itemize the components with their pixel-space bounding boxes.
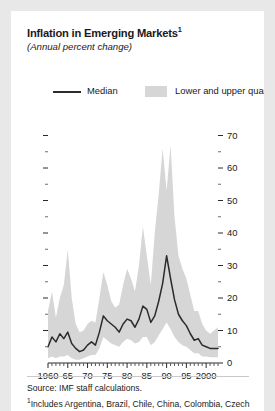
y-axis-label-30: 30 <box>227 260 237 271</box>
chart-plot-area <box>11 11 264 411</box>
y-axis-label-10: 10 <box>227 325 237 336</box>
y-axis-label-70: 70 <box>227 130 237 141</box>
y-axis-label-60: 60 <box>227 162 237 173</box>
footer-divider <box>27 376 249 377</box>
source-note: Source: IMF staff calculations. 1Include… <box>27 383 249 410</box>
footnote-text: Includes Argentina, Brazil, Chile, China… <box>31 398 250 408</box>
figure-panel: Inflation in Emerging Markets1 (Annual p… <box>11 11 264 411</box>
y-axis-label-40: 40 <box>227 227 237 238</box>
y-axis-label-50: 50 <box>227 195 237 206</box>
footnote-line: 1Includes Argentina, Brazil, Chile, Chin… <box>27 395 249 410</box>
source-line: Source: IMF staff calculations. <box>27 383 249 395</box>
quartile-band <box>48 145 218 360</box>
y-axis-label-0: 0 <box>227 357 232 368</box>
y-axis-label-20: 20 <box>227 292 237 303</box>
